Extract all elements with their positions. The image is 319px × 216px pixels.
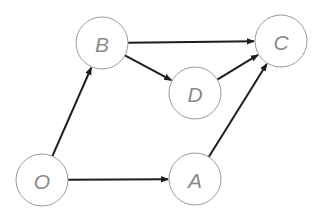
node-c: C: [255, 15, 307, 67]
node-label: B: [95, 33, 109, 56]
edge-d-to-c: [217, 55, 258, 80]
node-d: D: [169, 67, 221, 119]
node-label: O: [34, 170, 50, 193]
edge-b-to-c: [128, 41, 254, 42]
node-o: O: [16, 154, 68, 206]
node-b: B: [76, 17, 128, 69]
edge-a-to-c: [209, 64, 267, 157]
edge-o-to-b: [52, 68, 91, 156]
edge-o-to-a: [68, 179, 168, 180]
edge-b-to-d: [125, 55, 171, 80]
graph-diagram: OABCD: [0, 0, 319, 216]
node-label: A: [186, 169, 202, 192]
node-label: D: [187, 83, 202, 106]
node-a: A: [169, 153, 221, 205]
nodes-layer: OABCD: [16, 15, 307, 206]
node-label: C: [273, 31, 289, 54]
